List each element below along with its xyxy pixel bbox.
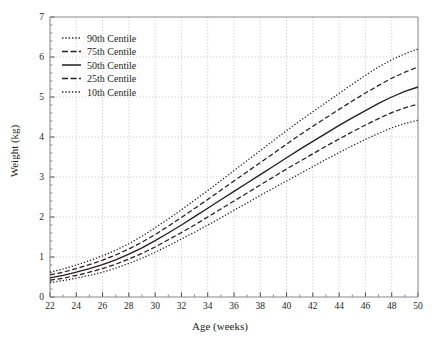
- x-tick-label: 36: [229, 301, 239, 311]
- y-tick-label: 3: [39, 172, 44, 182]
- x-tick-label: 48: [387, 301, 397, 311]
- x-tick-label: 40: [282, 301, 292, 311]
- legend-label: 50th Centile: [87, 60, 137, 71]
- y-tick-label: 6: [39, 52, 44, 62]
- legend-label: 25th Centile: [87, 73, 137, 84]
- y-tick-label: 2: [39, 212, 44, 222]
- x-tick-labels: 222426283032343638404244464850: [45, 301, 423, 311]
- y-tick-label: 7: [39, 12, 44, 22]
- x-tick-label: 26: [98, 301, 108, 311]
- x-tick-label: 30: [150, 301, 160, 311]
- y-tick-label: 4: [39, 132, 44, 142]
- y-tick-labels: 01234567: [39, 12, 44, 302]
- x-tick-label: 38: [256, 301, 266, 311]
- x-tick-label: 22: [45, 301, 55, 311]
- chart-legend: 90th Centile75th Centile50th Centile25th…: [62, 33, 137, 98]
- x-tick-label: 32: [177, 301, 187, 311]
- y-tick-label: 0: [39, 292, 44, 302]
- x-tick-label: 24: [72, 301, 82, 311]
- legend-label: 10th Centile: [87, 87, 137, 98]
- x-axis-title: Age (weeks): [0, 320, 440, 332]
- chart-canvas: 222426283032343638404244464850 01234567 …: [0, 0, 440, 348]
- x-tick-label: 44: [334, 301, 344, 311]
- growth-centile-chart: 222426283032343638404244464850 01234567 …: [0, 0, 440, 348]
- y-tick-label: 1: [39, 252, 44, 262]
- x-tick-label: 34: [203, 301, 213, 311]
- y-tick-label: 5: [39, 92, 44, 102]
- legend-label: 90th Centile: [87, 33, 137, 44]
- series-line: [50, 87, 418, 278]
- x-tick-label: 28: [124, 301, 134, 311]
- y-axis-title: Weight (kg): [8, 106, 20, 196]
- x-tick-label: 42: [308, 301, 318, 311]
- x-tick-label: 46: [361, 301, 371, 311]
- x-tick-label: 50: [413, 301, 423, 311]
- legend-label: 75th Centile: [87, 46, 137, 57]
